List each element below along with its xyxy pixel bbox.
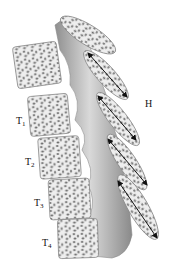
vertebral-body-t1 — [27, 93, 70, 136]
vertebral-body-t4 — [57, 218, 98, 258]
vertebrae-diagram — [0, 0, 174, 272]
label-t4: T4 — [42, 238, 52, 250]
label-t1: T1 — [16, 116, 26, 128]
label-h: H — [145, 99, 152, 109]
label-t3: T3 — [34, 198, 44, 210]
vertebral-body-t2 — [38, 136, 82, 180]
vertebral-body-c7 — [12, 41, 61, 89]
label-t2: T2 — [25, 157, 35, 169]
vertebral-body-t3 — [48, 178, 91, 220]
